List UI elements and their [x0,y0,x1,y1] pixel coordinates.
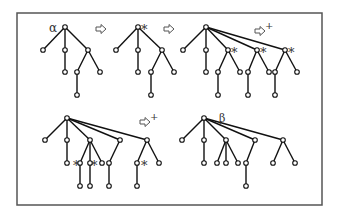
tree-edge [204,118,255,140]
tree-node [86,48,91,53]
tree-node [202,161,207,166]
tree-node [136,48,141,53]
tree-node [75,70,80,75]
tree-node [244,184,249,189]
tree-node [135,184,140,189]
tree-node [226,48,231,53]
tree-edge [67,118,120,140]
tree-node [283,48,288,53]
tree-root-node [65,116,70,121]
tree-edge [80,140,90,163]
tree-node [273,93,278,98]
plus-sign: + [150,111,158,122]
tree-node [181,48,186,53]
tree-node [295,70,300,75]
tree-node [255,48,260,53]
tree-edge [273,140,283,163]
tree-beta-edges [182,118,295,186]
tree-node [238,70,243,75]
tree-node [253,138,258,143]
tree-node [157,161,162,166]
tree-node [215,161,220,166]
tree-edge [217,140,226,163]
tree-edge [218,50,228,72]
tree-edge [183,27,206,50]
tree-node [180,138,185,143]
tree-edge [65,27,88,50]
star-t3-c: * [288,45,295,60]
tree-alpha-edges [43,27,100,95]
tree-node [293,161,298,166]
tree-node [267,70,272,75]
tree-edge [147,140,159,163]
tree-edge [151,50,162,72]
tree-beta [180,116,298,189]
tree-step-2-edges [116,27,174,95]
tree-node [244,161,249,166]
tree-edge [116,27,138,50]
tree-edge [226,140,238,163]
star-t4-c: * [141,158,148,173]
tree-alpha [41,25,103,98]
tree-node [271,161,276,166]
tree-node [246,70,251,75]
tree-rewriting-diagram: ++ αβ******* [0,0,338,217]
tree-edge [283,140,295,163]
tree-node [88,138,93,143]
tree-node [224,138,229,143]
tree-edge [88,50,100,72]
tree-node [114,48,119,53]
tree-node [273,70,278,75]
tree-node [149,93,154,98]
tree-root-node [136,25,141,30]
tree-node [224,161,229,166]
tree-node [65,138,70,143]
tree-node [88,184,93,189]
tree-node [43,138,48,143]
tree-node [63,70,68,75]
tree-node [65,161,70,166]
star-t3-a: * [231,45,238,60]
rewrite-plus-arrow-icon: + [140,111,158,127]
rewrite-plus-arrow-icon: + [255,20,273,36]
tree-node [63,48,68,53]
alpha-label: α [49,21,57,35]
tree-step-4 [43,116,162,189]
tree-node [149,70,154,75]
tree-node [136,70,141,75]
tree-edge [162,50,174,72]
tree-edge [77,50,88,72]
tree-node [236,161,241,166]
tree-node [204,70,209,75]
tree-node [160,48,165,53]
tree-edge [182,118,204,140]
diagram-frame [17,13,322,205]
tree-step-3-edges [183,27,297,95]
tree-node [202,138,207,143]
rewrite-arrow-icon [164,25,174,34]
tree-root-node [202,116,207,121]
tree-node [41,48,46,53]
plus-sign: + [265,20,273,31]
tree-node [100,161,105,166]
star-t2-root: * [141,22,148,37]
tree-node [118,138,123,143]
tree-node [216,93,221,98]
tree-node [107,184,112,189]
tree-step-4-edges [45,118,159,186]
beta-label: β [219,112,225,125]
tree-edge [246,140,255,163]
star-t4-a: * [73,158,80,173]
tree-node [246,93,251,98]
tree-node [204,48,209,53]
tree-edge [248,50,257,72]
tree-node [78,184,83,189]
tree-node [98,70,103,75]
tree-node [216,70,221,75]
tree-root-node [63,25,68,30]
tree-node [75,93,80,98]
tree-node [172,70,177,75]
star-t3-b: * [260,45,267,60]
tree-root-node [204,25,209,30]
tree-edge [109,140,120,163]
